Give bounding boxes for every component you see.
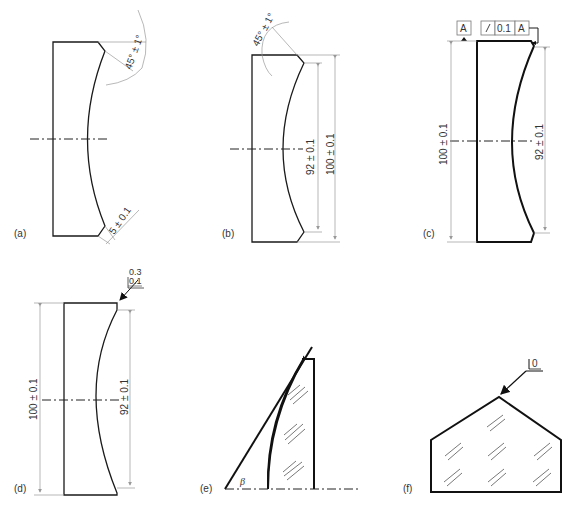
panel-c: A 0.1 A 100 ± 0.1 92 ± 0.1 (c) — [423, 21, 550, 242]
glass-hatch — [283, 385, 308, 480]
inner-dimension: 92 ± 0.1 — [534, 123, 545, 160]
surface-note-value: 0 — [532, 358, 538, 369]
datum-label: A — [460, 23, 467, 34]
outer-dimension: 100 ± 0.1 — [325, 133, 336, 175]
panel-label-c: (c) — [423, 228, 435, 239]
panel-label-e: (e) — [200, 483, 212, 494]
angle-dimension: 45° ± 1° — [250, 11, 276, 48]
panel-a: 45° ± 1° 5 ± 0.1 (a) — [14, 10, 146, 244]
panel-label-d: (d) — [14, 483, 26, 494]
inner-dimension: 92 ± 0.1 — [305, 138, 316, 175]
glass-hatch — [444, 415, 552, 486]
panel-e: β (e) — [200, 347, 358, 494]
angle-dimension: 45° ± 1° — [123, 33, 146, 70]
panel-label-a: (a) — [14, 228, 26, 239]
panel-d: 0.3 0.1 100 ± 0.1 92 ± 0.1 (d) — [14, 267, 144, 495]
panel-b: 45° ± 1° 92 ± 0.1 100 ± 0.1 (b) — [222, 11, 340, 242]
inner-dimension: 92 ± 0.1 — [119, 378, 130, 415]
panel-label-f: (f) — [403, 483, 412, 494]
panel-f: 0 (f) — [403, 358, 561, 494]
tolerance-datum: A — [518, 23, 525, 34]
surface-note-bottom: 0.1 — [129, 276, 142, 286]
beta-angle: β — [239, 476, 245, 487]
lens-drawings: 45° ± 1° 5 ± 0.1 (a) 45° ± 1° 92 ± 0.1 1… — [0, 0, 581, 508]
outer-dimension: 100 ± 0.1 — [28, 378, 39, 420]
datum-triangle — [461, 37, 467, 41]
panel-label-b: (b) — [222, 228, 234, 239]
tolerance-value: 0.1 — [497, 23, 511, 34]
outer-dimension: 100 ± 0.1 — [438, 123, 449, 165]
